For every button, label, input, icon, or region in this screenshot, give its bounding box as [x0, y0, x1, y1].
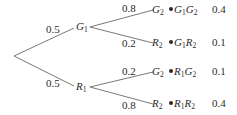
prob-g1-r2: 0.2 — [122, 38, 136, 49]
bullet-icon — [169, 101, 173, 105]
node-r1-r2: R2 — [152, 98, 162, 112]
prob-r1: 0.5 — [46, 78, 60, 89]
joint-g1r2: 0.1 — [212, 37, 226, 48]
joint-r1r2: 0.4 — [212, 98, 226, 109]
prob-g1: 0.5 — [46, 24, 60, 35]
bullet-icon — [169, 7, 173, 11]
node-g1-r2: R2 — [152, 37, 162, 51]
node-g1-g2: G2 — [152, 4, 164, 18]
joint-g1g2: 0.4 — [212, 4, 226, 15]
edge-root-r1 — [14, 56, 74, 86]
node-r1: R1 — [76, 81, 86, 95]
node-r1-g2: G2 — [152, 66, 164, 80]
edge-root-g1 — [14, 28, 74, 56]
node-g1: G1 — [76, 21, 88, 35]
prob-r1-g2: 0.2 — [122, 66, 136, 77]
outcome-g1g2: G1G2 — [169, 4, 197, 18]
prob-g1-g2: 0.8 — [122, 3, 136, 14]
bullet-icon — [169, 40, 173, 44]
outcome-r1r2: R1R2 — [169, 98, 195, 112]
outcome-g1r2: G1R2 — [169, 37, 196, 51]
outcome-r1g2: R1G2 — [169, 66, 196, 80]
prob-r1-r2: 0.8 — [122, 100, 136, 111]
bullet-icon — [169, 69, 173, 73]
joint-r1g2: 0.1 — [212, 66, 226, 77]
tree-edges — [0, 0, 237, 115]
